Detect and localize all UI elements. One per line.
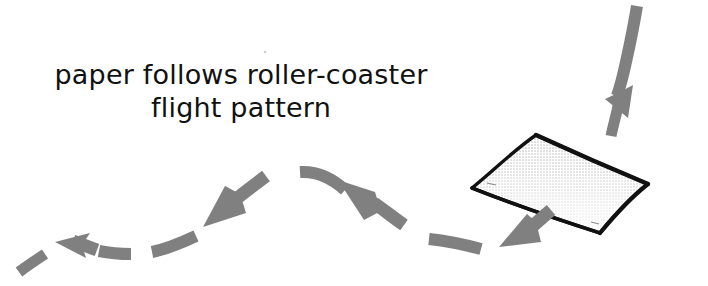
valley-dash-right (429, 239, 481, 249)
exit-tail-dash (19, 254, 45, 272)
figure-canvas: paper follows roller-coaster flight patt… (0, 0, 708, 286)
flight-path-exit (19, 233, 97, 272)
flight-path-descent (429, 210, 551, 249)
flight-path-falloff (99, 176, 266, 254)
caption-line-1: paper follows roller-coaster (54, 59, 428, 90)
flight-path-dive (605, 6, 637, 136)
valley-dash-left-lower (99, 251, 131, 254)
crest-dash (300, 172, 345, 190)
sheet-of-paper (440, 120, 680, 250)
caption-line-2: flight pattern (151, 92, 331, 123)
scan-speck (264, 51, 267, 54)
dive-shaft-dash (617, 6, 637, 96)
paper-flight-pattern-illustration: paper follows roller-coaster flight patt… (0, 0, 708, 286)
dive-tail-dash (611, 106, 618, 136)
valley-dash-left-upper (152, 236, 196, 252)
caption-block: paper follows roller-coaster flight patt… (54, 59, 428, 123)
flight-path-climb (300, 172, 404, 225)
